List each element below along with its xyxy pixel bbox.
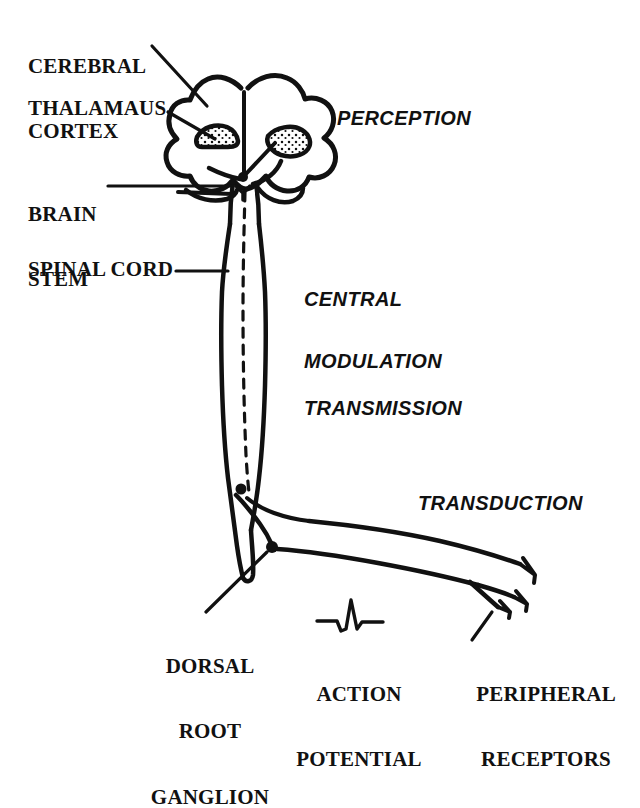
left-thalamic-nucleus	[196, 125, 238, 147]
thalamic-projection-fiber	[244, 143, 275, 176]
label-peripheral-receptors-line2: RECEPTORS	[458, 749, 634, 771]
label-dorsal-root-ganglion-line2: ROOT	[130, 721, 290, 743]
brainstem-left-wall	[230, 182, 233, 224]
label-cerebral-cortex-line2: CORTEX	[28, 121, 146, 143]
brain-base-left	[178, 192, 232, 194]
central-canal-dashed	[243, 192, 249, 492]
label-dorsal-root-ganglion-line1: DORSAL	[130, 656, 290, 678]
label-perception: PERCEPTION	[337, 108, 471, 129]
leader-peripheral-receptors	[472, 612, 492, 640]
action-potential-waveform	[317, 600, 383, 631]
receptor-terminal-mid	[514, 591, 527, 611]
label-brain-stem-line1: BRAIN	[28, 204, 97, 226]
label-transmission: TRANSMISSION	[304, 398, 462, 419]
label-dorsal-root-ganglion: DORSAL ROOT GANGLION	[130, 612, 290, 808]
label-transduction: TRANSDUCTION	[418, 493, 583, 514]
midbrain-junction-dot	[238, 172, 248, 182]
receptor-terminal-lower	[498, 601, 510, 618]
label-action-potential-line2: POTENTIAL	[280, 749, 438, 771]
receptor-terminal-upper	[520, 558, 535, 583]
label-cerebral-cortex-line1: CEREBRAL	[28, 56, 146, 78]
spinal-cord-left-wall	[221, 224, 243, 578]
label-spinal-cord: SPINAL CORD	[28, 259, 173, 281]
label-dorsal-root-ganglion-line3: GANGLION	[130, 787, 290, 808]
dorsal-horn-synapse-dot	[236, 484, 247, 495]
spinal-cord-right-wall	[251, 224, 266, 530]
leader-dorsal-root-ganglion	[206, 552, 267, 612]
brainstem-right-wall	[256, 183, 259, 224]
label-thalamaus: THALAMAUS	[28, 98, 166, 120]
label-brain-stem: BRAIN STEM	[28, 160, 97, 335]
label-action-potential-line1: ACTION	[280, 684, 438, 706]
label-central-modulation: CENTRAL MODULATION	[304, 247, 442, 413]
label-action-potential: ACTION POTENTIAL	[280, 640, 438, 808]
label-peripheral-receptors: PERIPHERAL RECEPTORS	[458, 640, 634, 808]
label-peripheral-receptors-line1: PERIPHERAL	[458, 684, 634, 706]
label-central-modulation-line2: MODULATION	[304, 351, 442, 372]
label-central-modulation-line1: CENTRAL	[304, 289, 442, 310]
peripheral-nerve-trunk	[277, 549, 478, 585]
left-internal-arc	[209, 168, 240, 179]
